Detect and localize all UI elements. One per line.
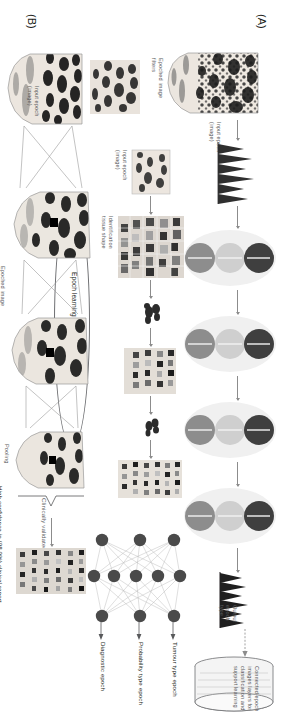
panel-a-cylinder-text: Connected epoch images layers for classi…	[232, 666, 260, 711]
arrow-a-3	[237, 290, 238, 314]
arrow-a-10	[150, 396, 151, 414]
panel-b-conclusion-label: High confidence in (98.9%) clinical repo…	[0, 486, 4, 603]
panel-b-filters-label: Epoched image filters	[0, 266, 6, 306]
panel-a-output-label: Output epoch type	[218, 605, 238, 622]
arrow-a-6	[237, 548, 238, 572]
panel-a-filters-thumb	[90, 60, 140, 114]
panel-b-brace	[16, 494, 86, 520]
arrow-b-1	[51, 518, 52, 546]
panel-a-input-label-2: Input epoch (image)	[115, 150, 128, 180]
panel-a-conv-group-4	[182, 486, 278, 546]
panel-a-input-tissue	[164, 47, 260, 119]
panel-a-thumb-1	[132, 150, 170, 194]
panel-a-feature-blob-1	[140, 300, 164, 326]
figure-canvas: (A)	[0, 0, 282, 724]
figure-root: (A)	[0, 0, 282, 724]
panel-b-connector-1	[2, 126, 86, 190]
panel-a-output-2: Probability type epoch	[138, 642, 145, 705]
arrow-a-11	[150, 440, 151, 458]
panel-a-identification-label: Identification tissue shape	[101, 216, 114, 249]
panel-a-feature-blob-2	[142, 416, 162, 438]
panel-a-conv-group-3	[182, 400, 278, 460]
arrow-a-7	[150, 196, 151, 214]
panel-a-spikes	[214, 142, 262, 204]
panel-a-output-arrow-3	[97, 622, 105, 640]
panel-a-output-arrow-1	[169, 622, 177, 640]
arrow-a-9	[150, 328, 151, 346]
panel-b-filter-patch-2	[10, 314, 90, 388]
arrow-a-8	[150, 280, 151, 298]
panel-b-label: (B)	[26, 14, 38, 29]
panel-a-output-arrow-2	[135, 622, 143, 640]
panel-a-output-3: Diagnostic epoch	[100, 642, 107, 691]
panel-b-connector-2	[2, 260, 86, 316]
arrow-a-2	[237, 206, 238, 228]
panel-a-conv-group-1	[182, 228, 278, 288]
arrow-a-5	[237, 462, 238, 486]
panel-a-output-1: Tumour type epoch	[172, 642, 179, 697]
panel-a-conv-group-2	[182, 314, 278, 374]
arrow-a-output	[238, 629, 252, 657]
panel-b-input-label: Input epoch (image)	[27, 86, 40, 116]
panel-a-filters-label: Epoched image filters	[151, 58, 164, 98]
panel-b-pooling-label: Pooling	[3, 444, 10, 463]
panel-b-pooling-patch	[14, 428, 86, 492]
panel-a-label: (A)	[256, 14, 268, 29]
panel-b-connector-3	[4, 386, 84, 430]
panel-b-filter-patch-1	[12, 188, 92, 262]
panel-a-feature-map	[118, 460, 182, 498]
panel-a-midgrid	[124, 348, 176, 394]
arrow-a-1	[237, 120, 238, 140]
panel-b-final-block	[16, 548, 86, 594]
panel-b-input-tissue	[6, 50, 84, 128]
panel-a-identification-grid	[118, 216, 184, 278]
arrow-a-4	[237, 376, 238, 400]
